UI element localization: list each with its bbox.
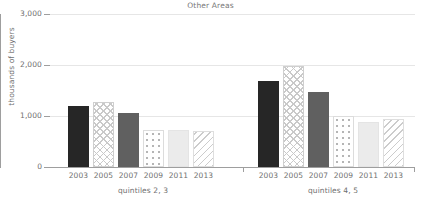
x-axis-group-separator-tick	[414, 167, 415, 172]
y-axis-tick-label: 1,000	[0, 111, 42, 120]
y-axis-tick-label: 3,000	[0, 9, 42, 18]
bar	[308, 92, 329, 167]
bar	[283, 66, 304, 167]
bar	[118, 113, 139, 167]
bars-container	[50, 14, 415, 167]
bar	[258, 81, 279, 167]
y-axis-tick	[44, 167, 50, 168]
bar	[333, 116, 354, 167]
y-axis-line	[0, 14, 1, 168]
bar-chart: Other Areas thousands of buyers 01,0002,…	[0, 0, 421, 203]
y-axis-tick-label: 2,000	[0, 60, 42, 69]
y-axis-tick-label: 0	[0, 162, 42, 171]
bar	[358, 122, 379, 167]
x-axis-group-label: quintiles 4, 5	[238, 186, 421, 195]
x-axis-line	[50, 167, 415, 168]
bar	[193, 131, 214, 167]
bar	[383, 119, 404, 167]
bar	[68, 106, 89, 167]
x-axis-tick-label: 2013	[379, 171, 408, 180]
chart-title: Other Areas	[0, 1, 421, 10]
bar	[168, 130, 189, 167]
x-axis-group-label: quintiles 2, 3	[48, 186, 238, 195]
x-axis-group-separator-tick	[243, 167, 244, 172]
bar	[143, 130, 164, 167]
bar	[93, 102, 114, 167]
x-axis-tick-label: 2013	[189, 171, 218, 180]
